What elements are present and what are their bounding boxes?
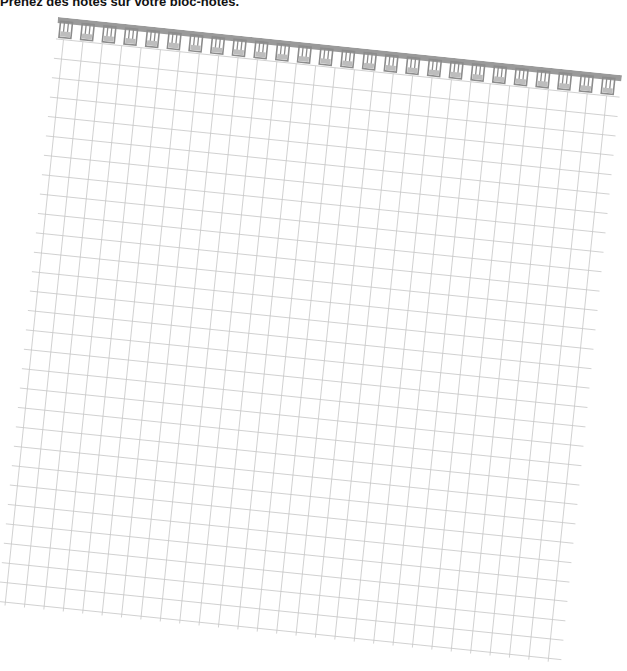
notepad[interactable]: [0, 17, 622, 663]
notepad-canvas[interactable]: [0, 17, 622, 663]
instruction-text: Prenez des notes sur votre bloc-notes.: [0, 0, 239, 9]
